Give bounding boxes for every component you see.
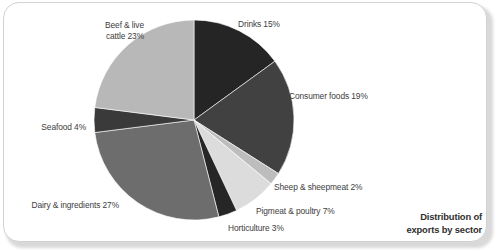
pie-slice-label-line: Dairy & ingredients 27% xyxy=(31,200,119,211)
pie-slice-label-line: Horticulture 3% xyxy=(228,223,284,234)
pie-slice-label: Horticulture 3% xyxy=(228,223,284,234)
pie-slice-label: Sheep & sheepmeat 2% xyxy=(274,182,362,193)
pie-slice-label-line: Beef & live xyxy=(105,20,144,31)
pie-slice-label-line: Seafood 4% xyxy=(41,122,86,133)
pie-slice-label: Beef & livecattle 23% xyxy=(105,20,144,42)
pie-slice-label: Pigmeat & poultry 7% xyxy=(256,206,335,217)
pie-slice-label-line: Consumer foods 19% xyxy=(289,91,368,102)
pie-slice-label: Consumer foods 19% xyxy=(289,91,368,102)
chart-figure: Drinks 15%Consumer foods 19%Sheep & shee… xyxy=(0,0,499,252)
pie-slice-label: Drinks 15% xyxy=(238,19,280,30)
chart-title-line-2: exports by sector xyxy=(362,223,482,236)
chart-title: Distribution of exports by sector xyxy=(362,210,482,236)
chart-title-line-1: Distribution of xyxy=(362,210,482,223)
pie-slice-label-line: Drinks 15% xyxy=(238,19,280,30)
pie-slice-label: Seafood 4% xyxy=(41,122,86,133)
pie-slice-label-line: Pigmeat & poultry 7% xyxy=(256,206,335,217)
pie-slice-label: Dairy & ingredients 27% xyxy=(31,200,119,211)
pie-slice-label-line: Sheep & sheepmeat 2% xyxy=(274,182,362,193)
pie-slice-label-line: cattle 23% xyxy=(105,31,144,42)
